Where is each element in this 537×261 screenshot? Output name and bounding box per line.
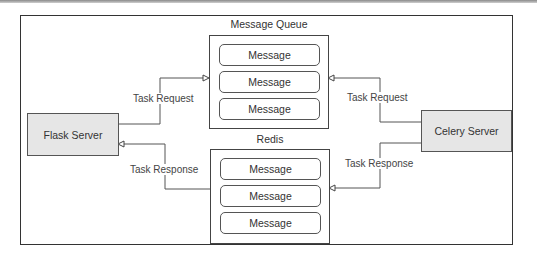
redis-box: Message Message Message — [210, 149, 330, 244]
redis-message: Message — [220, 158, 321, 180]
celery-server-node: Celery Server — [421, 110, 512, 152]
message-queue-title: Message Queue — [209, 18, 329, 30]
flask-server-node: Flask Server — [27, 113, 119, 156]
queue-message: Message — [219, 71, 320, 93]
celery-server-label: Celery Server — [434, 125, 498, 137]
edge-label-celery-task-request: Task Request — [346, 92, 409, 103]
redis-message: Message — [220, 185, 321, 207]
redis-title: Redis — [210, 133, 330, 145]
queue-message: Message — [219, 44, 320, 66]
redis-message: Message — [220, 212, 321, 234]
queue-message: Message — [219, 98, 320, 120]
edge-label-flask-task-request: Task Request — [132, 93, 195, 104]
message-queue-box: Message Message Message — [209, 35, 329, 129]
edge-label-celery-task-response: Task Response — [344, 158, 414, 169]
flask-server-label: Flask Server — [44, 129, 103, 141]
edge-label-flask-task-response: Task Response — [129, 164, 199, 175]
